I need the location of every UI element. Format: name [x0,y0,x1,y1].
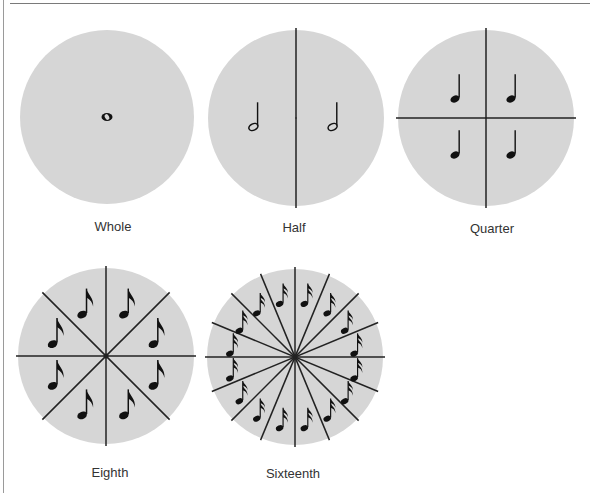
label-half: Half [282,220,305,235]
diagram-quarter [396,28,576,208]
label-whole: Whole [95,219,132,234]
diagram-whole [20,30,194,204]
center-point [485,117,487,119]
label-eighth: Eighth [92,465,129,480]
diagram-half [208,28,384,208]
label-quarter: Quarter [470,221,514,236]
center-point [295,117,297,119]
note-division-diagrams [0,0,593,493]
whole-note-icon [102,113,113,121]
center-point [293,355,298,360]
diagram-sixteenth [205,267,385,447]
label-sixteenth: Sixteenth [266,466,320,481]
diagram-eighth [16,266,196,446]
center-point [104,354,109,359]
